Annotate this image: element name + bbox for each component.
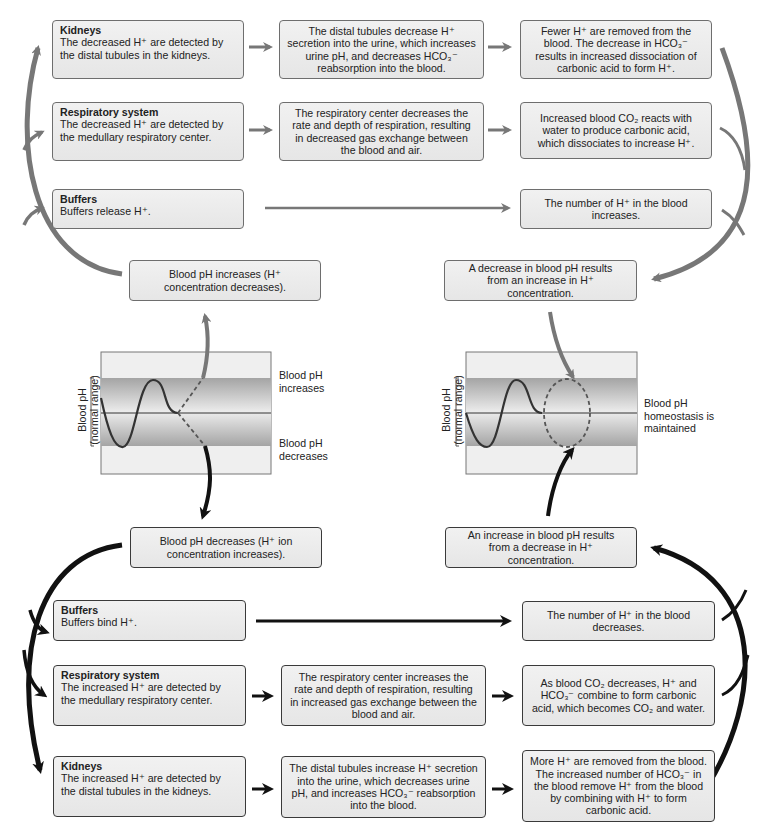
top-stimulus-box: Blood pH increases (H⁺ concentration dec… — [129, 260, 321, 301]
bottom-respiratory-detect: The increased H⁺ are detected by the med… — [61, 681, 221, 705]
bottom-kidneys-action-box: The distal tubules increase H⁺ secretion… — [281, 756, 486, 818]
top-buffers-title: Buffers — [60, 193, 236, 205]
top-left-loop-arrow — [24, 48, 122, 274]
bottom-respiratory-action-box: The respiratory center increases the rat… — [281, 665, 486, 726]
left-ylabel-line2: (normal range) — [88, 360, 100, 460]
top-respiratory-action: The respiratory center decreases the rat… — [287, 107, 476, 156]
top-response-box: A decrease in blood pH results from an i… — [444, 260, 637, 301]
right-ylabel-line1: Blood pH — [440, 360, 452, 460]
bottom-response: An increase in blood pH results from a d… — [460, 529, 622, 566]
left-ylabel-line1: Blood pH — [76, 360, 88, 460]
bottom-respiratory-box: Respiratory system The increased H⁺ are … — [53, 665, 246, 726]
right-ylabel-line2: (normal range) — [452, 360, 464, 460]
top-respiratory-box: Respiratory system The decreased H⁺ are … — [52, 102, 244, 161]
bottom-buffers-result-box: The number of H⁺ in the blood decreases. — [522, 601, 715, 641]
top-buffers-result-box: The number of H⁺ in the blood increases. — [520, 189, 712, 229]
top-buffers-box: Buffers Buffers release H⁺. — [52, 189, 244, 229]
top-buffers-detect: Buffers release H⁺. — [60, 205, 151, 217]
left-lower-label: Blood pH decreases — [279, 437, 339, 462]
bottom-buffers-result: The number of H⁺ in the blood decreases. — [530, 609, 707, 634]
bottom-respiratory-action: The respiratory center increases the rat… — [289, 671, 478, 720]
top-right-loop-arrow — [654, 48, 748, 279]
top-kidneys-detect: The decreased H⁺ are detected by the dis… — [60, 36, 223, 60]
top-kidneys-result-box: Fewer H⁺ are removed from the blood. The… — [520, 20, 712, 79]
bottom-buffers-box: Buffers Buffers bind H⁺. — [53, 600, 246, 641]
left-upper-label: Blood pH increases — [279, 369, 339, 394]
right-graph-ylabel: Blood pH (normal range) — [440, 360, 464, 460]
bottom-kidneys-result: More H⁺ are removed from the blood. The … — [530, 755, 707, 816]
top-respiratory-title: Respiratory system — [60, 106, 236, 118]
bottom-respiratory-result: As blood CO₂ decreases, H⁺ and HCO₃⁻ com… — [530, 677, 707, 714]
bottom-buffers-title: Buffers — [61, 604, 238, 616]
top-response: A decrease in blood pH results from an i… — [457, 262, 624, 299]
bottom-buffers-detect: Buffers bind H⁺. — [61, 616, 137, 628]
top-respiratory-result-box: Increased blood CO₂ reacts with water to… — [520, 102, 712, 159]
top-stimulus: Blood pH increases (H⁺ concentration dec… — [152, 268, 298, 293]
top-kidneys-box: Kidneys The decreased H⁺ are detected by… — [52, 20, 244, 79]
top-kidneys-result: Fewer H⁺ are removed from the blood. The… — [528, 25, 704, 74]
top-kidneys-action: The distal tubules decrease H⁺ secretion… — [287, 25, 476, 74]
bottom-kidneys-result-box: More H⁺ are removed from the blood. The … — [522, 750, 715, 822]
bottom-response-box: An increase in blood pH results from a d… — [445, 527, 637, 568]
bottom-kidneys-action: The distal tubules increase H⁺ secretion… — [289, 762, 478, 811]
top-respiratory-action-box: The respiratory center decreases the rat… — [279, 102, 484, 161]
top-buffers-result: The number of H⁺ in the blood increases. — [528, 197, 704, 222]
bottom-stimulus: Blood pH decreases (H⁺ ion concentration… — [153, 535, 299, 560]
top-kidneys-title: Kidneys — [60, 24, 236, 36]
bottom-kidneys-title: Kidneys — [61, 760, 238, 772]
left-graph-ylabel: Blood pH (normal range) — [76, 360, 100, 460]
top-respiratory-result: Increased blood CO₂ reacts with water to… — [528, 112, 704, 149]
bottom-left-loop-arrow — [24, 545, 122, 770]
top-kidneys-action-box: The distal tubules decrease H⁺ secretion… — [279, 20, 484, 79]
left-ph-graph — [91, 316, 271, 516]
bottom-kidneys-detect: The increased H⁺ are detected by the dis… — [61, 772, 221, 796]
right-side-label: Blood pH homeostasis is maintained — [644, 397, 724, 435]
bottom-kidneys-box: Kidneys The increased H⁺ are detected by… — [53, 756, 246, 817]
right-ph-graph — [456, 312, 637, 516]
bottom-respiratory-title: Respiratory system — [61, 669, 238, 681]
bottom-respiratory-result-box: As blood CO₂ decreases, H⁺ and HCO₃⁻ com… — [522, 665, 715, 726]
top-respiratory-detect: The decreased H⁺ are detected by the med… — [60, 118, 223, 142]
bottom-stimulus-box: Blood pH decreases (H⁺ ion concentration… — [130, 527, 322, 568]
